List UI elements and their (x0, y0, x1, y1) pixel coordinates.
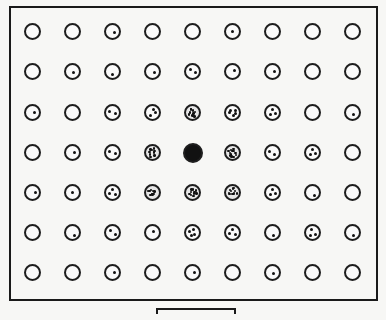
dot-icon (268, 150, 271, 153)
circle-cell (104, 144, 121, 161)
circle-cell (64, 23, 81, 40)
dot-icon (152, 230, 155, 233)
dot-icon (231, 30, 234, 33)
circle-cell (344, 104, 361, 121)
dot-icon (272, 234, 275, 237)
circle-cell (264, 224, 281, 241)
circle-cell (344, 264, 361, 281)
dot-icon (193, 191, 196, 194)
circle-cell (24, 23, 41, 40)
dot-icon (153, 190, 156, 193)
dot-grid (0, 0, 386, 320)
dot-icon (114, 152, 117, 155)
circle-cell (144, 224, 161, 241)
dot-icon (236, 192, 239, 195)
dot-icon (72, 71, 75, 74)
circle-cell (24, 224, 41, 241)
dot-icon (311, 148, 314, 151)
dot-icon (114, 193, 117, 196)
dot-icon (269, 113, 272, 116)
dot-icon (271, 188, 274, 191)
dot-icon (314, 233, 317, 236)
circle-cell (64, 104, 81, 121)
circle-cell (224, 144, 241, 161)
dot-icon (149, 194, 152, 197)
circle-cell (64, 63, 81, 80)
circle-cell (304, 224, 321, 241)
dot-icon (352, 113, 355, 116)
circle-cell (144, 23, 161, 40)
dot-icon (273, 70, 276, 73)
dot-icon (233, 69, 236, 72)
circle-cell (24, 144, 41, 161)
dot-icon (192, 228, 195, 231)
circle-cell (224, 23, 241, 40)
dot-icon (194, 111, 197, 114)
circle-cell (64, 144, 81, 161)
dot-icon (193, 115, 196, 118)
dot-icon (73, 151, 76, 154)
dot-icon (269, 193, 272, 196)
circle-cell (184, 104, 201, 121)
circle-cell (104, 224, 121, 241)
dot-icon (230, 190, 233, 193)
circle-cell (104, 23, 121, 40)
circle-cell (64, 184, 81, 201)
circle-cell (224, 63, 241, 80)
circle-cell (184, 224, 201, 241)
dot-icon (149, 114, 152, 117)
dot-icon (193, 271, 196, 274)
dot-icon (232, 114, 235, 117)
dot-icon (313, 194, 316, 197)
dot-icon (108, 110, 111, 113)
circle-cell (304, 184, 321, 201)
circle-cell (264, 104, 281, 121)
circle-cell (304, 63, 321, 80)
dot-icon (111, 73, 114, 76)
dot-icon (309, 153, 312, 156)
dot-icon (234, 152, 237, 155)
dot-icon (233, 187, 236, 190)
dot-icon (111, 188, 114, 191)
circle-cell (224, 184, 241, 201)
dot-icon (314, 152, 317, 155)
circle-cell (64, 224, 81, 241)
dot-icon (274, 192, 277, 195)
dot-icon (229, 109, 232, 112)
circle-cell (264, 264, 281, 281)
circle-cell (344, 63, 361, 80)
circle-cell (264, 144, 281, 161)
circle-cell (144, 184, 161, 201)
dot-icon (154, 111, 157, 114)
dot-icon (190, 234, 193, 237)
circle-cell (344, 23, 361, 40)
dot-icon (309, 234, 312, 237)
circle-cell (104, 104, 121, 121)
circle-cell (344, 144, 361, 161)
circle-cell (224, 264, 241, 281)
circle-cell (104, 184, 121, 201)
dot-icon (272, 272, 275, 275)
circle-cell (24, 63, 41, 80)
dot-icon (73, 234, 76, 237)
dot-icon (109, 229, 112, 232)
dot-icon (234, 233, 237, 236)
circle-cell (224, 104, 241, 121)
circle-cell (184, 63, 201, 80)
dot-icon (108, 192, 111, 195)
scale-bar (156, 308, 236, 310)
dot-icon (352, 234, 355, 237)
circle-cell (144, 104, 161, 121)
circle-cell (24, 184, 41, 201)
dot-icon (192, 195, 195, 198)
dot-icon (274, 112, 277, 115)
circle-cell (304, 104, 321, 121)
dot-icon (71, 191, 74, 194)
dot-icon (231, 228, 234, 231)
dot-icon (228, 232, 231, 235)
dot-icon (149, 156, 152, 159)
circle-cell (304, 23, 321, 40)
dot-icon (153, 71, 156, 74)
dot-icon (193, 233, 196, 236)
dot-icon (33, 111, 36, 114)
